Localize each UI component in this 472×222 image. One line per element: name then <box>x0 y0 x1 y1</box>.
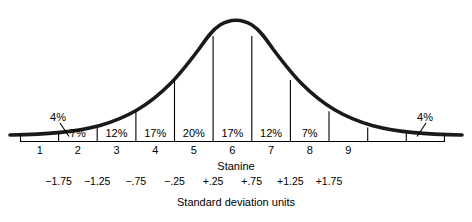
stanine-number-9: 9 <box>329 145 368 156</box>
sd-axis-caption: Standard deviation units <box>0 196 472 208</box>
percent-label-stanine-2: 7% <box>59 128 98 139</box>
normal-curve-path <box>10 20 462 135</box>
stanine-number-7: 7 <box>252 145 291 156</box>
sd-boundary-label-6: +.75 <box>232 176 271 187</box>
stanine-number-4: 4 <box>136 145 175 156</box>
stanine-number-3: 3 <box>97 145 136 156</box>
bell-curve-svg <box>0 0 472 222</box>
stanine-number-6: 6 <box>213 145 252 156</box>
percent-label-stanine-7: 12% <box>252 128 291 139</box>
sd-boundary-label-7: +1.25 <box>271 176 310 187</box>
percent-label-stanine-5: 20% <box>175 128 214 139</box>
tail-percent-label-left: 4% <box>42 112 74 123</box>
tail-percent-label-right: 4% <box>409 112 441 123</box>
sd-boundary-label-5: +.25 <box>194 176 233 187</box>
sd-boundary-label-3: −.75 <box>117 176 156 187</box>
sd-boundary-label-4: −.25 <box>155 176 194 187</box>
percent-label-stanine-4: 17% <box>136 128 175 139</box>
stanine-number-8: 8 <box>290 145 329 156</box>
percent-label-stanine-6: 17% <box>213 128 252 139</box>
percent-label-stanine-8: 7% <box>290 128 329 139</box>
sd-boundary-label-8: +1.75 <box>310 176 349 187</box>
stanine-number-1: 1 <box>21 145 60 156</box>
sd-boundary-label-2: −1.25 <box>78 176 117 187</box>
stanine-number-5: 5 <box>175 145 214 156</box>
stanine-axis-caption: Stanine <box>0 160 472 172</box>
percent-label-stanine-3: 12% <box>97 128 136 139</box>
stanine-chart-figure: 4% 4% 7% 12% 17% 20% 17% 12% 7% 1 2 3 4 … <box>0 0 472 222</box>
sd-boundary-label-1: −1.75 <box>39 176 78 187</box>
stanine-number-2: 2 <box>59 145 98 156</box>
